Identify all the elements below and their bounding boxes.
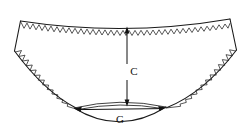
garment-diagram-svg: C G	[0, 0, 250, 139]
dimension-g-label: G	[116, 113, 124, 125]
side-seam-left	[15, 21, 21, 51]
leg-opening-right-zigzag-stitch	[167, 50, 236, 108]
dimension-c-arrowhead-top	[125, 27, 130, 34]
leg-opening-left-zigzag-stitch	[15, 51, 73, 109]
garment-technical-drawing: C G	[0, 0, 250, 139]
leg-opening-left	[15, 51, 77, 108]
dimension-c-group: C	[125, 27, 141, 107]
side-seam-right	[230, 19, 237, 50]
dimension-g-line	[79, 109, 161, 110]
stitching-group	[15, 22, 236, 108]
leg-opening-right	[166, 50, 237, 108]
dimension-c-label: C	[130, 65, 137, 77]
